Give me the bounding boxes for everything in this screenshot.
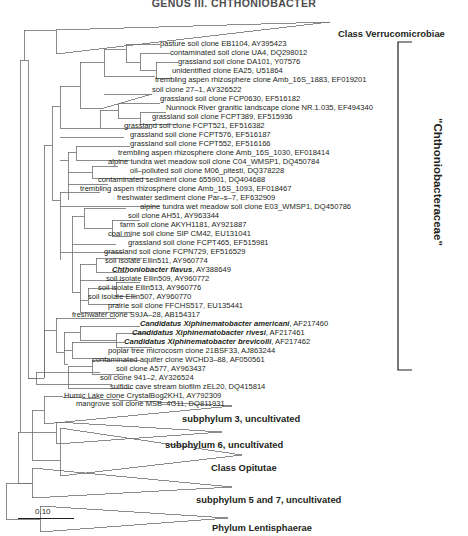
tip-label: coal mine soil clone SIP CM42, EU131041 bbox=[108, 230, 251, 238]
tip-label: alpine tundra wet meadow soil clone C04_… bbox=[108, 158, 320, 166]
tip-label: soil isolate Ellin511, AY960774 bbox=[105, 257, 208, 265]
tip-label: oil–polluted soil clone M06_pitesti, DQ3… bbox=[130, 167, 284, 175]
tip-label: grassland soil clone FCPT389, EF515936 bbox=[152, 113, 293, 121]
tip-label: soil clone 941–2, AY326524 bbox=[100, 374, 194, 382]
tip-label: freshwater clone S9JA–28, AB154317 bbox=[72, 311, 200, 319]
clade-label-lentisphaerae: Phylum Lentisphaerae bbox=[212, 522, 312, 533]
tip-label: soil isolate Ellin509, AY960772 bbox=[106, 275, 209, 283]
tip-label: soil clone A577, AY963437 bbox=[116, 365, 206, 373]
clade-label-subphylum6: subphylum 6, uncultivated bbox=[165, 439, 283, 450]
tip-label: contaminated sediment clone 655901, DQ40… bbox=[98, 176, 265, 184]
tip-label: sulfidic cave stream biofilm zEL20, DQ41… bbox=[110, 383, 265, 391]
scale-bar-label: 0.10 bbox=[35, 507, 51, 516]
tip-label: Chthoniobacter flavus, AY388649 bbox=[112, 266, 231, 274]
bracket-label-chthoniobacteraceae: "Chthoniobacteraceae" bbox=[432, 118, 444, 246]
tip-label: soil isolate Ellin513, AY960776 bbox=[98, 284, 201, 292]
tip-label: prairie soil clone FFCHS517, EU135441 bbox=[108, 302, 243, 310]
tip-label: soil clone AH51, AY963344 bbox=[128, 212, 219, 220]
tip-label: grassland soil clone FCP0630, EF516182 bbox=[160, 95, 300, 103]
tip-label: trembling aspen rhizosphere clone Amb_16… bbox=[80, 185, 292, 193]
tip-label: trembling aspen rhizosphere clone Amb_16… bbox=[155, 76, 367, 84]
clade-label-opitutae: Class Opitutae bbox=[211, 462, 277, 473]
tip-label: contaminated aquifer clone WCHD3–88, AF0… bbox=[92, 356, 265, 364]
tip-label: soil clone 27–1, AY326522 bbox=[152, 86, 241, 94]
tip-label: Candidatus Xiphinematobacter americani, … bbox=[140, 320, 328, 328]
tip-label: grassland soil clone FCPT521, EF516382 bbox=[124, 122, 265, 130]
tip-label: pasture soil clone EB1104, AY395423 bbox=[160, 40, 286, 48]
tip-label: Nunnock River granitic landscape clone N… bbox=[166, 104, 373, 112]
chthoniobacteraceae-bracket bbox=[398, 42, 412, 370]
tip-label: contaminated soil clone UA4, DQ298012 bbox=[170, 49, 307, 57]
tip-label: grassland soil clone DA101, Y07576 bbox=[178, 58, 300, 66]
tip-label: farm soil clone AKYH1181, AY921887 bbox=[120, 221, 246, 229]
tip-label: mangrove soil clone MSB–4G11, DQ811931 bbox=[76, 400, 225, 408]
clade-label-subphylum5and7: subphylum 5 and 7, uncultivated bbox=[196, 494, 341, 505]
tip-label: grassland soil clone FCPN729, EF516529 bbox=[104, 248, 245, 256]
phylogenetic-tree-figure: GENUS III. CHTHONIOBACTER bbox=[0, 0, 468, 536]
tip-label: grassland soil clone FCPT552, EF516166 bbox=[130, 140, 271, 148]
tip-label: Candidatus Xiphinematobacter brevicolli,… bbox=[124, 338, 310, 346]
clade-label-verrucomicrobiae: Class Verrucomicrobiae bbox=[338, 28, 445, 39]
tip-label: trembling aspen rhizosphere clone Amb_16… bbox=[118, 149, 330, 157]
tip-label: freshwater sediment clone Par–s–7, EF632… bbox=[117, 194, 275, 202]
tip-label: Candidatus Xiphinematobacter rivesi, AF2… bbox=[132, 329, 305, 337]
tip-label: alpine tundra wet meadow soil clone E03_… bbox=[140, 203, 351, 211]
tip-label: soil isolate Ellin507, AY960770 bbox=[88, 293, 191, 301]
tip-label: grassland soil clone FCPT465, EF515981 bbox=[128, 239, 269, 247]
clade-label-subphylum3: subphylum 3, uncultivated bbox=[182, 413, 300, 424]
tip-label: unidentified clone EA25, U51864 bbox=[172, 67, 283, 75]
tip-label: poplar tree microcosm clone 21BSF33, AJ8… bbox=[108, 347, 275, 355]
tip-label: grassland soil clone FCPT576, EF516187 bbox=[130, 131, 271, 139]
